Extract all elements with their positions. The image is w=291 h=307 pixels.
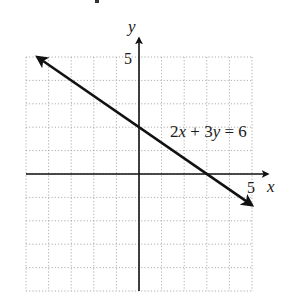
equation-label: 2x + 3y = 6	[170, 122, 247, 141]
x-axis-label: x	[266, 177, 275, 196]
cropped-glyph-fragment	[95, 0, 99, 3]
graph-figure: y 5 5 x 2x + 3y = 6	[0, 0, 291, 307]
x-tick-label-5: 5	[247, 179, 255, 196]
y-axis-label: y	[126, 17, 136, 36]
y-tick-label-5: 5	[124, 50, 132, 67]
